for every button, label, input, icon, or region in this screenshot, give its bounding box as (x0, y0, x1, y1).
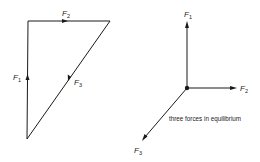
f1-arrowhead-icon (185, 21, 189, 28)
vector-f3 (145, 88, 187, 137)
f2-arrowhead-icon (230, 86, 237, 90)
f3-arrowhead-icon (68, 75, 71, 81)
origin-point (185, 86, 189, 90)
vector-label-f2: F2 (240, 84, 248, 94)
f2-arrowhead-icon (62, 19, 68, 23)
force-diagram: F2 F1 F3 F1 F2 F3 three forces in equili… (0, 0, 260, 162)
vector-label-f3: F3 (134, 146, 142, 156)
f1-arrowhead-icon (26, 74, 30, 80)
vector-label-f1: F1 (184, 10, 192, 20)
concurrent-forces: F1 F2 F3 three forces in equilibrium (134, 10, 248, 156)
force-triangle: F2 F1 F3 (13, 9, 110, 139)
equilibrium-caption: three forces in equilibrium (169, 115, 241, 123)
triangle-label-f2: F2 (62, 9, 70, 19)
triangle-label-f3: F3 (74, 78, 82, 88)
triangle-label-f1: F1 (13, 73, 21, 83)
